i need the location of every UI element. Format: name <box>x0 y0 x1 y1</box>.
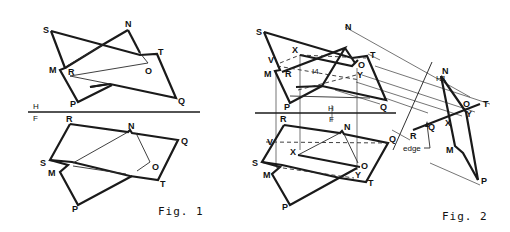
label-M: M <box>446 145 454 155</box>
fig2-front-view: R N Q V X S O M Y T P <box>252 114 396 212</box>
label-S: S <box>40 158 46 168</box>
label-Q: Q <box>181 136 188 146</box>
label-P: P <box>481 176 487 186</box>
label-S: S <box>256 27 262 37</box>
label-Y: Y <box>357 70 363 80</box>
label-O: O <box>145 66 152 76</box>
edge-annotation: edge <box>403 144 421 153</box>
label-N: N <box>345 22 352 32</box>
label-R: R <box>280 114 287 124</box>
label-T: T <box>160 179 166 189</box>
fold-label-H: H <box>328 104 334 113</box>
label-N: N <box>125 19 132 29</box>
label-M: M <box>49 65 57 75</box>
label-T: T <box>158 47 164 57</box>
fold-label-H: H <box>33 102 39 111</box>
label-P: P <box>282 202 288 212</box>
fold-label-F: F <box>33 114 38 123</box>
label-P: P <box>72 204 78 214</box>
label-X: X <box>290 147 296 157</box>
fig2-caption: Fig. 2 <box>442 210 488 223</box>
label-Q: Q <box>389 134 396 144</box>
label-O: O <box>463 99 470 109</box>
label-X: X <box>445 118 451 128</box>
label-Q: Q <box>178 96 185 106</box>
label-Q: Q <box>428 122 435 132</box>
fig2-aux-view: N O T Y X Q R M P edge <box>403 66 489 186</box>
descriptive-geometry-diagram: S N T M R O P Q H F R N Q S M O T P <box>0 0 510 232</box>
label-P: P <box>70 99 76 109</box>
label-T: T <box>368 178 374 188</box>
label-V: V <box>268 55 274 65</box>
fig1-top-view: S N T M R O P Q <box>43 19 185 109</box>
label-N: N <box>128 121 135 131</box>
label-O: O <box>361 161 368 171</box>
fig1-front-view: R N Q S M O T P <box>40 114 188 214</box>
label-Q: Q <box>380 102 387 112</box>
label-O: O <box>358 60 365 70</box>
label-X: X <box>292 45 298 55</box>
label-R: R <box>410 131 417 141</box>
label-P: P <box>284 102 290 112</box>
label-N: N <box>344 122 351 132</box>
label-R: R <box>68 67 75 77</box>
label-R: R <box>66 114 73 124</box>
label-Y: Y <box>466 109 472 119</box>
label-V: V <box>267 137 273 147</box>
fold-label-F: F <box>329 115 334 124</box>
label-S: S <box>43 25 49 35</box>
label-M: M <box>264 69 272 79</box>
label-Y: Y <box>355 170 361 180</box>
label-T: T <box>483 99 489 109</box>
label-M: M <box>263 170 271 180</box>
label-I4: I4 <box>312 67 319 76</box>
label-S: S <box>252 158 258 168</box>
label-T: T <box>370 50 376 60</box>
label-R: R <box>285 69 292 79</box>
label-O: O <box>152 162 159 172</box>
label-M: M <box>48 168 56 178</box>
fig1-caption: Fig. 1 <box>158 205 204 218</box>
label-N: N <box>442 66 449 76</box>
fig2: S N X T V O M R I4 Y P Q H F H1 R N <box>252 22 490 223</box>
fig1: S N T M R O P Q H F R N Q S M O T P <box>28 19 204 218</box>
